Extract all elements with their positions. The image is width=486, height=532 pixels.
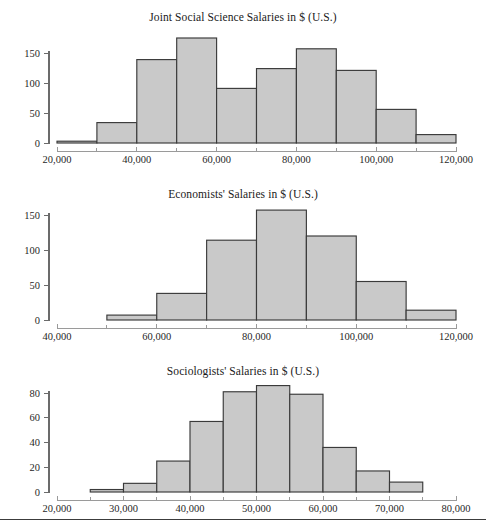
x-axis-tick-label: 40,000 [43,331,72,342]
histogram-bar [406,310,456,320]
x-axis-tick-label: 60,000 [202,154,231,165]
x-axis-tick-label: 120,000 [439,331,473,342]
histogram-plot: 05010015020,00040,00060,00080,000100,000… [0,0,486,177]
y-axis-tick-label: 60 [30,412,41,423]
y-axis-tick-label: 0 [35,487,40,498]
histogram-bar [223,392,256,492]
histogram-bar [376,109,416,143]
histogram-bar [107,315,157,320]
histogram-bar [97,123,137,143]
histogram-bar [157,293,207,320]
histogram-bar [257,210,307,320]
histogram-plot: 05010015040,00060,00080,000100,000120,00… [0,177,486,355]
x-axis-tick-label: 50,000 [242,503,271,514]
x-axis-tick-label: 80,000 [442,503,471,514]
y-axis-tick-label: 150 [24,210,40,221]
histogram-bar [157,461,190,492]
x-axis-tick-label: 40,000 [122,154,151,165]
histogram-bar [290,394,323,492]
histogram-bar [306,236,356,320]
y-axis-tick-label: 0 [35,138,40,149]
bottom-divider [0,519,486,520]
histogram-bar [356,471,389,492]
histogram-bar [356,282,406,321]
histogram-bar [57,141,97,143]
y-axis-tick-label: 50 [30,108,41,119]
histogram-bar [296,49,336,143]
x-axis-tick-label: 60,000 [309,503,338,514]
histogram-bar [190,421,223,492]
histogram-bar [257,69,297,143]
chart-panel-economists: Economists' Salaries in $ (U.S.) 0501001… [0,177,486,355]
histogram-bar [124,483,157,492]
y-axis-tick-label: 100 [24,245,40,256]
x-axis-tick-label: 120,000 [439,154,473,165]
histogram-bar [207,240,257,320]
x-axis-tick-label: 20,000 [43,154,72,165]
histogram-bar [257,386,290,492]
chart-panel-sociologists: Sociologists' Salaries in $ (U.S.) 02040… [0,355,486,532]
x-axis-tick-label: 100,000 [359,154,393,165]
x-axis-tick-label: 100,000 [339,331,373,342]
x-axis-tick-label: 80,000 [242,331,271,342]
x-axis-tick-label: 20,000 [43,503,72,514]
histogram-bar [137,60,177,143]
y-axis-tick-label: 150 [24,48,40,59]
x-axis-tick-label: 60,000 [142,331,171,342]
x-axis-tick-label: 70,000 [375,503,404,514]
histogram-bar [177,38,217,143]
y-axis-tick-label: 80 [30,388,41,399]
histogram-bar [416,135,456,143]
y-axis-tick-label: 40 [30,437,41,448]
y-axis-tick-label: 0 [35,315,40,326]
histogram-bar [390,482,423,492]
histogram-bar [336,70,376,143]
y-axis-tick-label: 50 [30,280,41,291]
x-axis-tick-label: 30,000 [109,503,138,514]
histogram-bar [90,490,123,492]
chart-panel-joint-social-science: Joint Social Science Salaries in $ (U.S.… [0,0,486,177]
x-axis-tick-label: 40,000 [176,503,205,514]
y-axis-tick-label: 20 [30,462,41,473]
x-axis-tick-label: 80,000 [282,154,311,165]
histogram-bar [323,447,356,492]
histogram-bar [217,88,257,143]
y-axis-tick-label: 100 [24,78,40,89]
histogram-plot: 02040608020,00030,00040,00050,00060,0007… [0,355,486,532]
